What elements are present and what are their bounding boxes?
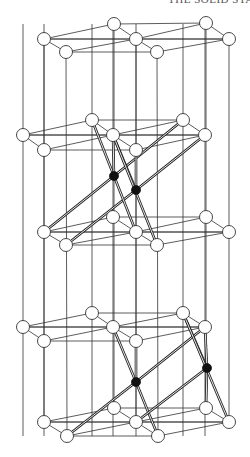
bond-highlight	[67, 382, 136, 436]
layer-edge	[66, 232, 136, 245]
atom-icon	[199, 129, 212, 142]
dark-atom-icon	[110, 172, 119, 181]
layer-edge	[136, 23, 206, 39]
atom-icon	[177, 114, 190, 127]
atom-icon	[130, 144, 143, 157]
layer-edge	[23, 120, 92, 135]
lattice-atoms	[17, 17, 236, 443]
atom-icon	[61, 430, 74, 443]
dark-atom-icon	[132, 378, 141, 387]
atom-icon	[223, 226, 236, 239]
atom-icon	[130, 335, 143, 348]
atom-icon	[152, 430, 165, 443]
layer-edge	[158, 422, 229, 436]
atom-icon	[108, 402, 121, 415]
bond-highlight	[92, 120, 114, 176]
atom-icon	[38, 416, 51, 429]
atom-icon	[38, 33, 51, 46]
atom-icon	[86, 307, 99, 320]
atom-icon	[38, 144, 51, 157]
atom-icon	[107, 321, 120, 334]
atom-icon	[60, 239, 73, 252]
layer-edge	[157, 232, 229, 245]
atom-icon	[38, 335, 51, 348]
layer-edge	[23, 313, 92, 327]
atom-icon	[130, 33, 143, 46]
atom-icon	[223, 33, 236, 46]
atom-icon	[223, 416, 236, 429]
atom-icon	[200, 17, 213, 30]
layer-edge	[114, 23, 206, 24]
crystal-structure-diagram	[0, 0, 250, 457]
atom-icon	[151, 239, 164, 252]
atom-icon	[108, 18, 121, 31]
atom-icon	[200, 211, 213, 224]
atom-icon	[38, 226, 51, 239]
bond-highlight	[136, 135, 205, 190]
bond-highlight	[136, 368, 207, 422]
atom-icon	[17, 129, 30, 142]
atom-icon	[107, 129, 120, 142]
atom-icon	[60, 46, 73, 59]
atom-icon	[151, 46, 164, 59]
layer-edge	[66, 39, 136, 52]
atom-icon	[199, 321, 212, 334]
bond-highlight	[114, 120, 183, 176]
atom-icon	[107, 211, 120, 224]
bond-highlight	[136, 327, 205, 382]
dark-atom-icon	[132, 186, 141, 195]
atom-icon	[130, 416, 143, 429]
bonds	[44, 120, 229, 436]
atom-icon	[130, 226, 143, 239]
layer-edge	[44, 24, 114, 39]
layer-edge	[157, 39, 229, 52]
bond-highlight	[66, 190, 136, 245]
atom-icon	[17, 321, 30, 334]
atom-icon	[86, 114, 99, 127]
bond-highlight	[44, 176, 114, 232]
dark-atom-icon	[203, 364, 212, 373]
layer-edge	[44, 408, 114, 422]
atom-icon	[177, 307, 190, 320]
atom-icon	[200, 402, 213, 415]
layer-edge	[113, 313, 183, 327]
layer-edge	[44, 327, 113, 341]
